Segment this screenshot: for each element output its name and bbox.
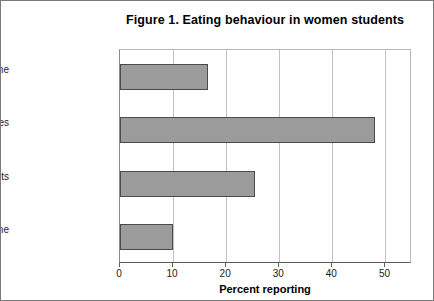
- x-tick-label-50: 50: [369, 268, 399, 279]
- category-label: diets most or all of time: [0, 64, 9, 76]
- plot-area: [119, 49, 411, 263]
- chart-title: Figure 1. Eating behaviour in women stud…: [119, 13, 411, 27]
- bar: [120, 117, 375, 143]
- bar-row: [120, 171, 412, 197]
- category-label: occasional diet and watches: [0, 117, 9, 129]
- category-label: none: [0, 224, 9, 236]
- bar: [120, 171, 255, 197]
- bar-row: [120, 64, 412, 90]
- x-tick-mark-30: [278, 263, 279, 267]
- x-tick-mark-10: [172, 263, 173, 267]
- bar: [120, 224, 173, 250]
- x-tick-mark-40: [331, 263, 332, 267]
- bar-row: [120, 117, 412, 143]
- x-tick-label-10: 10: [157, 268, 187, 279]
- x-tick-label-30: 30: [263, 268, 293, 279]
- x-tick-label-40: 40: [316, 268, 346, 279]
- x-tick-mark-50: [384, 263, 385, 267]
- category-label: watches never diets: [0, 171, 9, 183]
- figure-frame: Figure 1. Eating behaviour in women stud…: [0, 0, 434, 301]
- x-tick-label-0: 0: [104, 268, 134, 279]
- x-tick-mark-20: [225, 263, 226, 267]
- x-tick-mark-0: [119, 263, 120, 267]
- bar-row: [120, 224, 412, 250]
- x-axis-title: Percent reporting: [119, 283, 411, 295]
- x-tick-label-20: 20: [210, 268, 240, 279]
- bar: [120, 64, 208, 90]
